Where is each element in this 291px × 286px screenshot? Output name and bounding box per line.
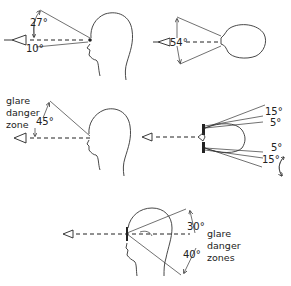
panel-side-view-glare: glare danger zone 45°: [6, 95, 131, 176]
panel-side-view-vertical: 27° 10°: [4, 10, 133, 80]
zone-label: zone: [6, 119, 29, 130]
panel-top-view-eyes: 15° 5° 5° 15°: [142, 105, 284, 176]
glare-vision-diagram: 27° 10° 54° glare danger zone 45°: [0, 0, 291, 286]
angle-label-10: 10°: [26, 43, 44, 54]
eye-target-icon: [158, 38, 170, 46]
panel-top-view-horizontal: 54°: [153, 17, 266, 64]
eye-target-icon: [14, 133, 26, 143]
eye-target-icon: [63, 230, 73, 238]
danger-label: danger: [207, 240, 241, 251]
head-top-view: [221, 25, 266, 58]
danger-label: danger: [6, 107, 40, 118]
angle-label-27: 27°: [30, 17, 48, 28]
angle-label-30: 30°: [187, 221, 205, 232]
head-profile: [87, 109, 131, 176]
angle-label-15-lower: 15°: [262, 154, 280, 165]
glare-label: glare: [6, 95, 30, 106]
angle-label-5-upper: 5°: [270, 117, 281, 128]
angle-label-40: 40°: [183, 249, 201, 260]
head-profile: [87, 13, 133, 80]
zones-label: zones: [207, 252, 235, 263]
eye-target-icon: [12, 35, 26, 45]
head-profile: [126, 208, 172, 276]
glare-label: glare: [207, 228, 231, 239]
angle-label-54: 54°: [170, 37, 188, 48]
eye-target-icon: [142, 133, 152, 141]
panel-side-view-glare-zones: 30° 40° glare danger zones: [63, 208, 241, 276]
angle-label-15-upper: 15°: [265, 106, 283, 117]
angle-label-45: 45°: [36, 116, 54, 127]
angle-label-5-lower: 5°: [271, 142, 282, 153]
